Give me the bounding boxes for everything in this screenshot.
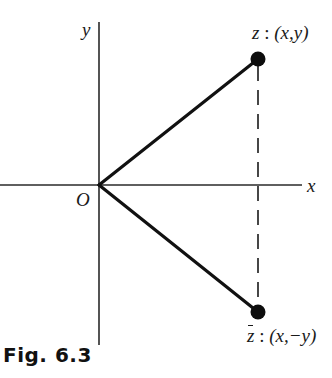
point-z-bar-separator: : bbox=[254, 325, 269, 346]
point-z-label: z : (x,y) bbox=[252, 23, 308, 42]
origin-label: O bbox=[76, 190, 90, 209]
point-z-separator: : bbox=[259, 22, 274, 43]
figure-6-3: y x O z : (x,y) z : (x,−y) Fig. 6.3 bbox=[0, 0, 332, 378]
point-z-coords: (x,y) bbox=[274, 22, 308, 43]
point-z-bar-label: z : (x,−y) bbox=[247, 326, 316, 345]
figure-caption: Fig. 6.3 bbox=[3, 345, 92, 365]
point-z-bar bbox=[251, 305, 266, 320]
complex-plane-diagram bbox=[0, 0, 332, 378]
x-axis-label: x bbox=[307, 176, 315, 195]
point-z-bar-coords: (x,−y) bbox=[269, 325, 316, 346]
vector-z bbox=[99, 59, 258, 185]
point-z-bar-name: z bbox=[247, 326, 254, 345]
y-axis-label: y bbox=[82, 20, 90, 39]
point-z bbox=[251, 52, 266, 67]
vector-z-bar bbox=[99, 185, 258, 312]
